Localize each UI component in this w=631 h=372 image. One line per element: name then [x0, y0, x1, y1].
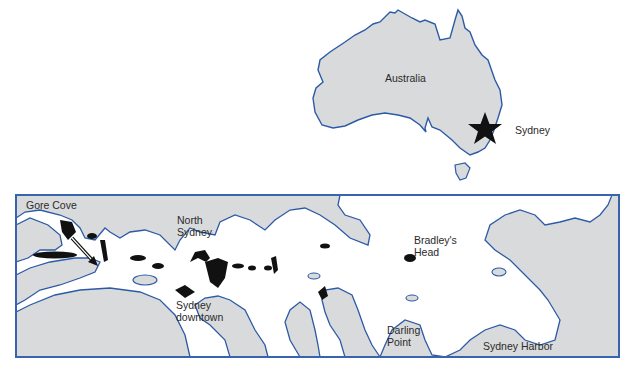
label-gore-cove: Gore Cove — [26, 199, 77, 211]
label-north-sydney: North Sydney — [177, 214, 212, 238]
label-australia: Australia — [385, 72, 426, 84]
map-canvas — [0, 0, 631, 372]
label-sydney: Sydney — [515, 124, 550, 136]
harbor-map — [16, 195, 619, 357]
label-bradleys-head: Bradley's Head — [414, 234, 457, 258]
label-sydney-downtown: Sydney downtown — [176, 299, 223, 323]
label-darling-point: Darling Point — [387, 324, 420, 348]
australia-landmass — [313, 10, 502, 180]
label-sydney-harbor: Sydney Harbor — [483, 340, 553, 352]
tasmania-landmass — [455, 163, 470, 180]
